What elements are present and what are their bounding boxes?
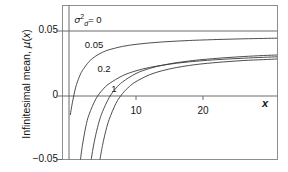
curve-0_2: [91, 55, 277, 160]
curve-group: [70, 38, 276, 160]
curve-0: [70, 38, 276, 114]
curve-0_05: [80, 57, 276, 160]
plot-frame: [63, 6, 278, 160]
plot-canvas: [0, 0, 288, 172]
chart-figure: Infinitesimal mean, μ(x) 0.05 0 −0.05 10…: [0, 0, 288, 172]
